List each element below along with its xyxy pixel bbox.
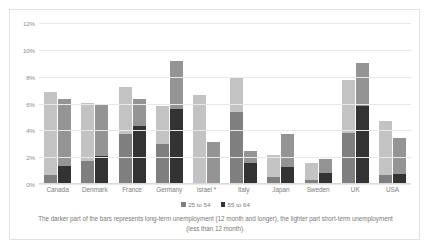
bar-segment-short-term [230,78,243,112]
y-axis-tick-label: 2% [26,154,35,161]
bar-segment-long-term [342,133,355,184]
gridline [39,50,411,51]
bar-segment-short-term [267,155,280,176]
bar[interactable] [58,99,71,184]
bar-segment-long-term [133,126,146,184]
legend-label: 55 to 64 [228,201,250,208]
x-axis-tick-label: Japan [262,186,299,200]
chart-caption: The darker part of the bars represents l… [31,214,400,235]
chart-screenshot: 12%10%8%6%4%2%0% CanadaDenmarkFranceGerm… [0,0,431,249]
bar-segment-long-term [244,163,257,184]
y-axis-tick-label: 6% [26,100,35,107]
bar-segment-short-term [356,63,369,107]
x-axis-tick-label: Sweden [299,186,336,200]
bar[interactable] [244,151,257,184]
bar[interactable] [281,134,294,184]
chart-legend: 25 to 5455 to 64 [10,201,421,208]
gridline [39,157,411,158]
legend-label: 25 to 54 [188,201,210,208]
bar-segment-short-term [170,61,183,109]
gridline [39,130,411,131]
y-axis-tick-label: 10% [23,46,35,53]
bar-segment-long-term [230,112,243,184]
chart-container: 12%10%8%6%4%2%0% CanadaDenmarkFranceGerm… [9,9,420,240]
bar[interactable] [133,99,146,184]
bar-segment-long-term [281,167,294,184]
bar-segment-short-term [319,159,332,172]
x-axis-tick-label: Italy [225,186,262,200]
plot-area: 12%10%8%6%4%2%0% [39,23,411,184]
bar-segment-long-term [58,166,71,184]
bar-segment-short-term [207,142,220,184]
x-axis-tick-label: France [113,186,150,200]
x-axis-tick-label: Israel * [188,186,225,200]
y-axis-tick-label: 8% [26,73,35,80]
legend-item[interactable]: 25 to 54 [181,201,210,208]
bar[interactable] [356,63,369,184]
bar[interactable] [81,103,94,184]
gridline [39,23,411,24]
bar-segment-short-term [156,106,169,144]
bar-segment-short-term [81,103,94,161]
x-axis-tick-label: UK [337,186,374,200]
x-axis-labels: CanadaDenmarkFranceGermanyIsrael *ItalyJ… [39,186,411,200]
bar-segment-short-term [193,95,206,184]
legend-swatch-icon [221,202,226,207]
x-axis-tick-label: Germany [151,186,188,200]
bar[interactable] [207,142,220,184]
gridline [39,77,411,78]
bar[interactable] [95,104,108,184]
bar-segment-long-term [170,109,183,184]
bar-segment-long-term [356,106,369,184]
bar[interactable] [342,80,355,184]
bar-segment-long-term [119,134,132,184]
y-axis-tick-label: 0% [26,181,35,188]
bar[interactable] [156,106,169,184]
bar-segment-short-term [58,99,71,165]
gridline [39,104,411,105]
bar-segment-long-term [95,156,108,184]
y-axis-tick-label: 4% [26,127,35,134]
bar-segment-short-term [379,121,392,175]
legend-item[interactable]: 55 to 64 [221,201,250,208]
x-axis-tick-label: Denmark [76,186,113,200]
bar-segment-short-term [305,163,318,180]
bar-segment-short-term [119,87,132,135]
bar[interactable] [44,92,57,184]
bar[interactable] [267,155,280,184]
gridline [39,184,411,185]
bar[interactable] [170,61,183,184]
bar[interactable] [305,163,318,184]
bar-segment-long-term [81,161,94,184]
x-axis-tick-label: Canada [39,186,76,200]
y-axis-tick-label: 12% [23,20,35,27]
bar-segment-short-term [281,134,294,167]
legend-swatch-icon [181,202,186,207]
bar-segment-short-term [342,80,355,133]
bar-segment-short-term [393,138,406,174]
x-axis-tick-label: USA [374,186,411,200]
bar[interactable] [193,95,206,184]
bar-segment-long-term [156,144,169,184]
bar[interactable] [119,87,132,184]
bar[interactable] [319,159,332,184]
bar[interactable] [393,138,406,184]
